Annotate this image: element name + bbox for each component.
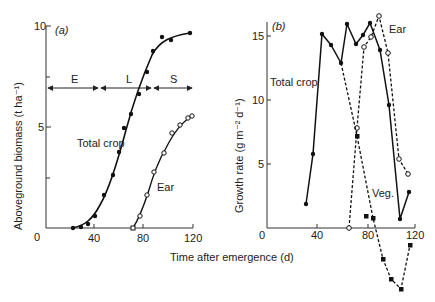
annotation-ear-a: Ear [157, 181, 174, 193]
x-tick-80: 80 [362, 229, 374, 241]
panel-label-b: (b) [272, 20, 286, 32]
y-tick-10: 10 [34, 20, 46, 32]
y-axis-title-a: Aboveground biomass (t ha⁻¹) [12, 82, 24, 230]
markers-total-crop-a [71, 31, 192, 230]
y-tick-0: 0 [34, 231, 40, 243]
series-ear-a [133, 116, 192, 228]
phase-label-s: S [170, 73, 177, 85]
x-tick-0: 0 [259, 229, 265, 241]
annotation-total-crop-b: Total crop [270, 76, 318, 88]
ticks-a [46, 26, 193, 228]
markers-veg-b [355, 134, 413, 292]
x-tick-80: 80 [137, 232, 149, 244]
series-veg-b [341, 63, 410, 289]
x-tick-40: 40 [88, 232, 100, 244]
panel-label-a: (a) [55, 24, 69, 36]
phase-label-e: E [71, 73, 78, 85]
annotation-ear-b: Ear [389, 23, 406, 35]
y-axis-title-b: Growth rate (g m⁻² d⁻¹) [233, 98, 245, 213]
x-axis-title: Time after emergence (d) [170, 251, 294, 263]
y-tick-5: 5 [38, 121, 44, 133]
figure: 10 5 0 40 80 120 (a) Aboveground biomass… [0, 0, 435, 302]
annotation-veg-b: Veg. [372, 187, 394, 199]
x-tick-40: 40 [311, 229, 323, 241]
panel-b: 15 10 5 0 40 80 120 (b) Growth rate (g m… [233, 14, 424, 292]
annotation-total-crop-a: Total crop [77, 137, 125, 149]
x-tick-120: 120 [184, 232, 202, 244]
panel-a: 10 5 0 40 80 120 (a) Aboveground biomass… [12, 20, 202, 244]
phase-label-l: L [126, 73, 132, 85]
y-tick-5: 5 [258, 158, 264, 170]
x-tick-120: 120 [406, 229, 424, 241]
y-tick-15: 15 [252, 30, 264, 42]
y-tick-10: 10 [252, 94, 264, 106]
